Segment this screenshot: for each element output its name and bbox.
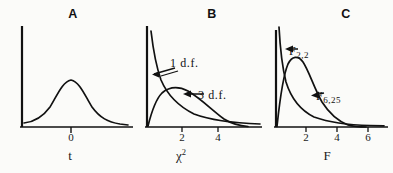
curve-label-3df: 3 d.f.	[198, 88, 227, 103]
curve-label-f625: F6,25	[316, 89, 341, 104]
panel-a-t-distribution: A 0 t	[0, 0, 140, 173]
tick-label-6: 6	[361, 131, 375, 143]
tick-label-4: 4	[211, 131, 225, 143]
t-distribution-curve	[24, 80, 128, 125]
panel-b-chi-square-distribution: B 2 4 1	[128, 0, 268, 173]
panel-letter-b: B	[202, 7, 222, 21]
curve-label-1df: 1 d.f.	[170, 56, 199, 71]
axis-title-t: t	[53, 148, 87, 164]
chi2-1df-curve	[151, 31, 260, 124]
panel-b-plot	[128, 22, 268, 134]
panel-letter-a: A	[63, 7, 83, 21]
panel-letter-c: C	[336, 7, 356, 21]
axis-title-f: F	[310, 148, 344, 164]
axis-title-chi-square: χ2	[164, 148, 198, 164]
tick-label-4: 4	[330, 131, 344, 143]
tick-label-0: 0	[64, 131, 78, 143]
panel-c-plot	[258, 22, 393, 134]
distributions-figure: A 0 t B	[0, 0, 393, 173]
curve-label-f22: F2,2	[289, 44, 309, 59]
panel-a-plot	[0, 22, 140, 134]
tick-label-2: 2	[175, 131, 189, 143]
panel-c-f-distribution: C 2 4 6	[258, 0, 393, 173]
F-2-2-curve	[279, 27, 384, 126]
tick-label-2: 2	[299, 131, 313, 143]
